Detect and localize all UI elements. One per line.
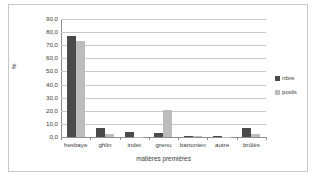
legend-item-nbre[interactable]: nbre <box>275 75 309 81</box>
chart-frame: 0,010,020,030,040,050,060,070,080,090,0 … <box>8 4 308 172</box>
legend-label: nbre <box>282 75 294 81</box>
x-tick-label: autre <box>207 141 236 148</box>
bar-poids <box>193 136 202 137</box>
bar-group <box>178 19 207 137</box>
bar-nbre <box>154 133 163 137</box>
chart-legend: nbrepoids <box>275 75 309 103</box>
bar-group <box>61 19 90 137</box>
x-tick-mark <box>237 137 238 140</box>
bar-groups <box>61 19 266 137</box>
x-axis-title: matières premières <box>61 155 266 162</box>
bar-poids <box>105 134 114 137</box>
x-tick-label: indet <box>120 141 149 148</box>
y-tick-label: 30,0 <box>12 95 58 101</box>
bar-nbre <box>213 136 222 137</box>
legend-swatch-icon <box>275 76 280 81</box>
y-tick-label: 60,0 <box>12 55 58 61</box>
x-tick-label: hesbaye <box>61 141 90 148</box>
x-tick-mark <box>266 137 267 140</box>
y-tick-label: 90,0 <box>12 16 58 22</box>
y-tick-label: 80,0 <box>12 29 58 35</box>
x-tick-label: bartonien <box>178 141 207 148</box>
bar-group <box>237 19 266 137</box>
bar-poids <box>76 41 85 137</box>
x-tick-mark <box>120 137 121 140</box>
bar-nbre <box>242 128 251 137</box>
y-axis-title: % <box>11 63 17 69</box>
legend-label: poids <box>282 89 297 95</box>
y-tick-label: 10,0 <box>12 121 58 127</box>
y-axis-tick-labels: 0,010,020,030,040,050,060,070,080,090,0 <box>9 19 58 137</box>
bar-poids <box>251 134 260 137</box>
x-tick-label: ghlin <box>90 141 119 148</box>
bar-group <box>149 19 178 137</box>
bar-nbre <box>184 136 193 137</box>
bar-group <box>90 19 119 137</box>
bar-group <box>120 19 149 137</box>
x-tick-mark <box>207 137 208 140</box>
y-tick-label: 50,0 <box>12 68 58 74</box>
legend-swatch-icon <box>275 90 280 95</box>
y-tick-label: 40,0 <box>12 82 58 88</box>
x-tick-mark <box>149 137 150 140</box>
bar-nbre <box>67 36 76 137</box>
y-tick-label: 20,0 <box>12 108 58 114</box>
x-tick-mark <box>178 137 179 140</box>
x-tick-mark <box>61 137 62 140</box>
bar-nbre <box>96 128 105 137</box>
plot-area <box>61 19 266 137</box>
x-tick-label: brûlés <box>237 141 266 148</box>
x-tick-mark <box>90 137 91 140</box>
gridline <box>61 137 266 138</box>
legend-item-poids[interactable]: poids <box>275 89 309 95</box>
x-axis-tick-labels: hesbayeghlinindetgrenubartonienautrebrûl… <box>61 141 266 148</box>
x-tick-label: grenu <box>149 141 178 148</box>
y-tick-label: 70,0 <box>12 42 58 48</box>
bar-nbre <box>125 132 134 137</box>
y-tick-label: 0,0 <box>12 134 58 140</box>
bar-group <box>207 19 236 137</box>
bar-poids <box>163 110 172 137</box>
